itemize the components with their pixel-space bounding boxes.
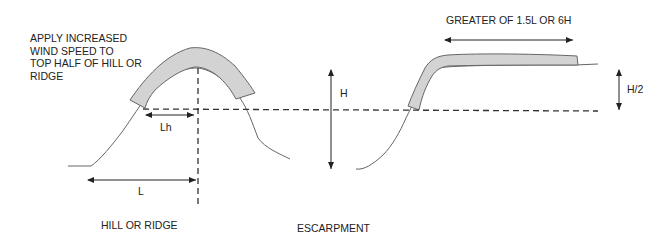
escarpment-caption: ESCARPMENT [297,222,370,235]
hill-caption: HILL OR RIDGE [101,219,178,232]
h-label: H [340,87,348,100]
escarpment-shaded-zone [408,54,578,110]
escarpment-profile [356,64,598,169]
hill-shaded-zone [130,48,255,108]
annotation-text: APPLY INCREASED WIND SPEED TO TOP HALF O… [30,32,142,82]
half-height-label: H/2 [627,83,643,96]
hill-profile [68,68,290,166]
lh-label: Lh [160,121,172,134]
top-length-label: GREATER OF 1.5L OR 6H [446,14,571,27]
l-label: L [138,185,144,198]
half-height-dashed-line [143,109,598,111]
